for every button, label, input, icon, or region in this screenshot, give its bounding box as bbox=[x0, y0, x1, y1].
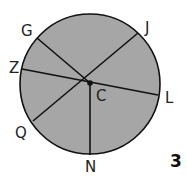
center-point bbox=[87, 80, 93, 86]
figure-number: 3 bbox=[170, 151, 182, 171]
label-g: G bbox=[21, 22, 33, 40]
label-z: Z bbox=[9, 59, 19, 77]
label-q: Q bbox=[15, 124, 27, 142]
label-j: J bbox=[144, 19, 149, 37]
circle-diagram: G J Z L Q C N 3 bbox=[0, 0, 187, 179]
label-n: N bbox=[85, 158, 96, 176]
label-l: L bbox=[165, 89, 174, 107]
label-c: C bbox=[96, 87, 106, 105]
